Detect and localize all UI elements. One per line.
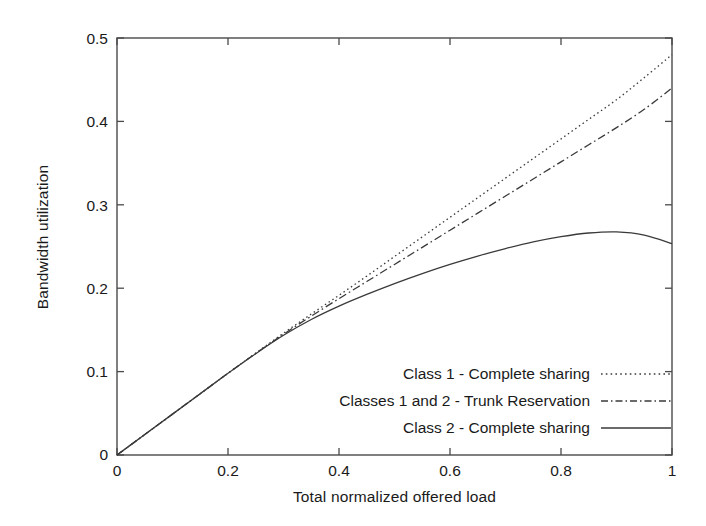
x-tick-label: 0.4 (311, 462, 367, 480)
x-tick-label: 0.2 (200, 462, 256, 480)
legend-item-label: Classes 1 and 2 - Trunk Reservation (339, 392, 590, 410)
y-tick-label: 0.5 (62, 30, 108, 48)
x-axis-label-text: Total normalized offered load (293, 488, 496, 505)
legend-swatch-dash-dot (600, 394, 672, 408)
y-tick-label: 0.3 (62, 197, 108, 215)
legend-item-label: Class 2 - Complete sharing (403, 419, 590, 437)
y-tick-label: 0.4 (62, 113, 108, 131)
y-axis-label: Bandwidth utilization (31, 97, 55, 377)
legend-item: Class 2 - Complete sharing (262, 414, 672, 441)
x-tick-label: 1 (644, 462, 700, 480)
x-axis-label: Total normalized offered load (117, 488, 672, 506)
legend-swatch-solid (600, 421, 672, 435)
y-tick-label: 0.1 (62, 363, 108, 381)
x-tick-label: 0.6 (422, 462, 478, 480)
legend-item: Class 1 - Complete sharing (262, 360, 672, 387)
legend-item: Classes 1 and 2 - Trunk Reservation (262, 387, 672, 414)
y-tick-label: 0.2 (62, 280, 108, 298)
legend-swatch-dotted (600, 367, 672, 381)
x-tick-label: 0 (89, 462, 145, 480)
chart-figure: 0.5 0.4 0.3 0.2 0.1 0 0 0.2 0.4 0.6 0.8 … (0, 0, 706, 526)
x-tick-label: 0.8 (533, 462, 589, 480)
legend-item-label: Class 1 - Complete sharing (403, 365, 590, 383)
chart-legend: Class 1 - Complete sharing Classes 1 and… (262, 360, 672, 441)
y-axis-label-text: Bandwidth utilization (34, 165, 52, 309)
